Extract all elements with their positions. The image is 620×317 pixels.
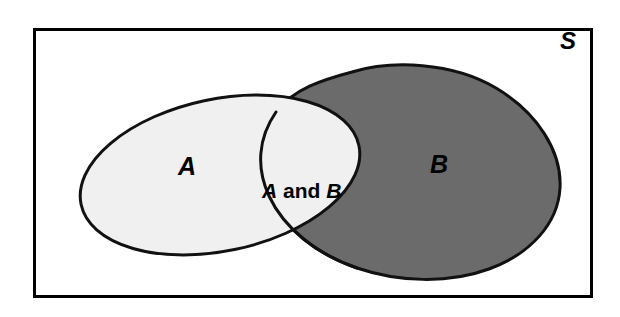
venn-diagram-canvas: S A B A and B: [0, 0, 620, 317]
intersection-label: A and B: [262, 180, 341, 201]
intersection-label-conjunction: and: [277, 179, 326, 202]
venn-diagram-graphic: [0, 0, 620, 317]
sample-space-label: S: [560, 29, 576, 53]
intersection-label-first: A: [262, 179, 277, 202]
set-a-label: A: [178, 154, 196, 179]
set-b-label: B: [430, 152, 448, 177]
intersection-label-second: B: [326, 179, 341, 202]
